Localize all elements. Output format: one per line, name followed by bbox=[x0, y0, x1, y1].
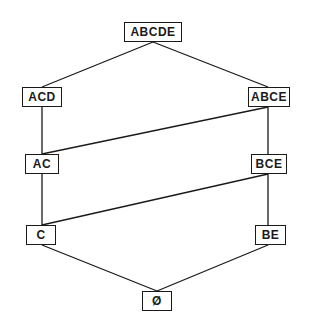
node-bce: BCE bbox=[251, 154, 287, 174]
edge-bce-c bbox=[42, 174, 268, 225]
node-ac: AC bbox=[25, 154, 59, 174]
edge-abcde-abce bbox=[153, 42, 268, 87]
edge-c-empty bbox=[42, 245, 157, 291]
node-c: C bbox=[26, 225, 56, 245]
node-be: BE bbox=[255, 225, 286, 245]
node-empty: Ø bbox=[142, 291, 172, 311]
node-abcde: ABCDE bbox=[124, 22, 182, 42]
edge-be-empty bbox=[157, 245, 268, 291]
edge-abcde-acd bbox=[42, 42, 153, 87]
edge-abce-ac bbox=[42, 107, 268, 154]
node-abce: ABCE bbox=[248, 87, 290, 107]
node-acd: ACD bbox=[22, 87, 62, 107]
